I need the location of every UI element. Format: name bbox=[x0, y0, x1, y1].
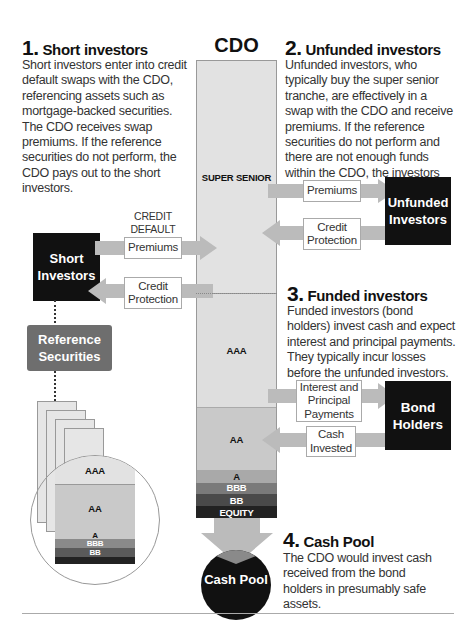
section-number: 3. bbox=[287, 282, 304, 305]
interest-principal-label: Interest and Principal Payments bbox=[296, 380, 362, 422]
section-number: 2. bbox=[285, 36, 302, 59]
funded-investors-description: Funded investors (bond holders) invest c… bbox=[287, 304, 459, 381]
tranche-label: EQUITY bbox=[219, 507, 253, 518]
entity-label: Bond Holders bbox=[385, 399, 451, 433]
tranche-label: BB bbox=[89, 548, 100, 557]
tranche-label: AAA bbox=[227, 345, 247, 356]
entity-label: Unfunded Investors bbox=[385, 194, 451, 228]
ref-tranche-a: A bbox=[55, 531, 135, 539]
ref-tranche-equity bbox=[55, 557, 135, 564]
section-number: 1. bbox=[22, 36, 39, 59]
premiums-label-short: Premiums bbox=[124, 237, 182, 259]
cdo-title: CDO bbox=[196, 34, 277, 57]
section-title: Unfunded investors bbox=[305, 41, 440, 58]
dotted-connector bbox=[54, 371, 56, 401]
unfunded-investors-description: Unfunded investors, who typically buy th… bbox=[285, 58, 457, 197]
dotted-connector bbox=[196, 293, 277, 294]
section-title: Short investors bbox=[42, 41, 148, 58]
tranche-label: BBB bbox=[227, 482, 247, 493]
tranche-equity-label: EQUITY bbox=[196, 506, 277, 518]
tranche-label: AA bbox=[230, 434, 243, 445]
tranche-label: AA bbox=[88, 503, 101, 514]
short-investors-description: Short investors enter into credit defaul… bbox=[22, 58, 187, 197]
tranche-label: AAA bbox=[85, 465, 105, 476]
entity-label: Reference Securities bbox=[27, 331, 112, 365]
magnifier-circle: AAA AA A BBB BB bbox=[30, 455, 160, 585]
ref-tranche-aa: AA bbox=[55, 485, 135, 531]
tranche-label: BB bbox=[230, 495, 243, 506]
reference-securities-box: Reference Securities bbox=[27, 325, 112, 371]
ref-tranche-aaa: AAA bbox=[55, 456, 135, 485]
short-investors-heading: 1. Short investors bbox=[22, 36, 148, 60]
cash-pool-description: The CDO would invest cash received from … bbox=[283, 551, 433, 613]
section-title: Cash Pool bbox=[303, 533, 374, 550]
tranche-bbb-label: BBB bbox=[196, 481, 277, 494]
tranche-label: SUPER SENIOR bbox=[202, 172, 271, 183]
section-title: Funded investors bbox=[307, 287, 427, 304]
tranche-label: BBB bbox=[87, 539, 104, 548]
unfunded-investors-heading: 2. Unfunded investors bbox=[285, 36, 441, 60]
ref-tranche-bbb: BBB bbox=[55, 539, 135, 548]
tranche-aaa: AAA bbox=[197, 294, 276, 407]
unfunded-investors-box: Unfunded Investors bbox=[385, 177, 451, 245]
cash-pool-circle: Cash Pool bbox=[201, 550, 271, 620]
reference-tranche-stack: AAA AA A BBB BB bbox=[55, 456, 135, 584]
premiums-label-unfunded: Premiums bbox=[303, 180, 361, 202]
funded-investors-heading: 3. Funded investors bbox=[287, 282, 428, 306]
cdo-tranche-column: SUPER SENIOR AAA AA A bbox=[196, 60, 277, 490]
cash-pool-label: Cash Pool bbox=[201, 572, 271, 587]
credit-protection-label-unfunded: Credit Protection bbox=[303, 218, 361, 250]
bond-holders-box: Bond Holders bbox=[385, 381, 451, 450]
ref-tranche-bb: BB bbox=[55, 548, 135, 557]
dotted-connector bbox=[54, 300, 56, 327]
arrow-tip bbox=[201, 550, 271, 570]
cash-pool-heading: 4. Cash Pool bbox=[283, 528, 374, 552]
cash-invested-label: Cash Invested bbox=[306, 426, 356, 457]
tranche-bb-label: BB bbox=[196, 494, 277, 506]
credit-protection-label-short: Credit Protection bbox=[124, 277, 182, 309]
bottom-divider bbox=[22, 613, 454, 614]
section-number: 4. bbox=[283, 528, 300, 551]
